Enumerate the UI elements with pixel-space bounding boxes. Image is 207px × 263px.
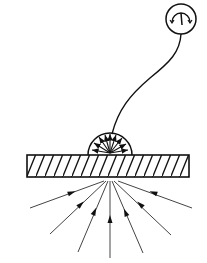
ray-arrow-6 <box>135 200 144 209</box>
radiation-detector-diagram <box>0 0 207 263</box>
meter-gauge <box>166 4 196 34</box>
ray-1 <box>30 181 104 208</box>
hatched-slab <box>27 155 189 177</box>
ray-arrow-5 <box>122 208 130 217</box>
gauge-needle <box>181 13 182 25</box>
ray-6 <box>114 181 171 235</box>
ray-arrowheads <box>67 189 158 223</box>
connecting-wire <box>112 34 181 134</box>
ray-arrow-4 <box>108 215 113 223</box>
ray-3 <box>78 181 108 252</box>
ray-5 <box>112 181 143 253</box>
detector <box>88 133 132 155</box>
ray-2 <box>50 181 106 234</box>
ray-arrow-3 <box>91 207 99 216</box>
ray-arrow-1 <box>67 189 76 196</box>
